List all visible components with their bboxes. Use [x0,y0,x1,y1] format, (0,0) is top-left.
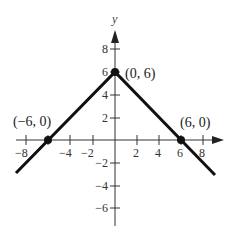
y-tick-labels: 8 6 4 2 −2 −4 −6 [95,42,108,215]
svg-text:6: 6 [102,65,108,79]
svg-text:−8: −8 [15,146,28,160]
point-label-neg6-0: (−6, 0) [13,114,52,130]
svg-text:8: 8 [102,42,108,56]
svg-text:−4: −4 [95,179,108,193]
point-0-6 [111,68,119,76]
svg-text:2: 2 [102,111,108,125]
svg-text:6: 6 [177,146,183,160]
x-axis-arrow-icon [212,136,224,144]
graph: y −8 −4 −2 2 4 6 8 8 6 4 2 −2 −4 −6 [0,0,228,226]
y-axis-arrow-icon [111,30,119,43]
svg-text:−4: −4 [59,146,72,160]
point-neg6-0 [44,136,52,144]
point-label-0-6: (0, 6) [125,66,156,82]
svg-text:4: 4 [155,146,161,160]
x-tick-labels: −8 −4 −2 2 4 6 8 [15,146,205,160]
y-axis-label: y [111,12,118,26]
svg-text:−2: −2 [81,146,94,160]
point-label-6-0: (6, 0) [180,115,211,131]
svg-text:−2: −2 [95,156,108,170]
svg-text:4: 4 [102,88,108,102]
svg-text:−6: −6 [95,201,108,215]
point-6-0 [177,136,185,144]
svg-text:2: 2 [133,146,139,160]
